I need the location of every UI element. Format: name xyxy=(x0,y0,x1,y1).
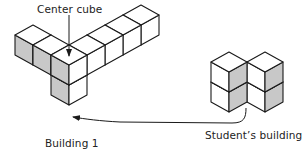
building-1-label: Building 1 xyxy=(45,137,99,149)
building-1-cubes xyxy=(15,5,159,105)
student-to-building-1-arrow xyxy=(73,108,246,123)
students-building-cubes xyxy=(211,52,283,112)
center-cube-label: Center cube xyxy=(37,3,102,15)
students-building-label: Student’s building xyxy=(205,129,302,141)
